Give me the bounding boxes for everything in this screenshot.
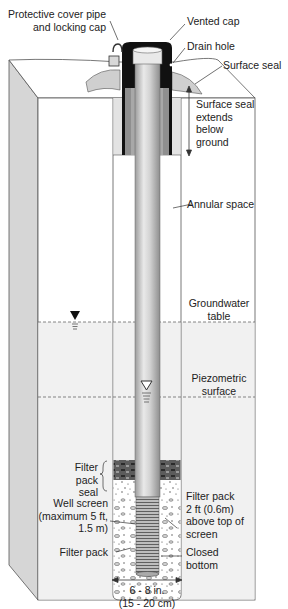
label-annular-space: Annular space: [187, 198, 254, 211]
padlock-icon: [109, 56, 119, 66]
closed-bottom: [136, 572, 159, 577]
label-vented-cap: Vented cap: [187, 15, 240, 28]
label-surface-seal-extends: Surface seal extends below ground: [196, 98, 254, 148]
drain-hole: [170, 64, 173, 67]
label-protective-cover: Protective cover pipe and locking cap: [0, 8, 106, 33]
label-well-screen: Well screen (maximum 5 ft, 1.5 m): [20, 497, 108, 535]
label-diameter: 6 - 8 in. (15 - 20 cm): [107, 584, 187, 609]
label-groundwater-table: Groundwater table: [181, 297, 257, 322]
label-drain-hole: Drain hole: [187, 40, 235, 53]
label-surface-seal: Surface seal: [223, 59, 281, 72]
label-filter-pack-seal: Filter pack seal: [50, 461, 98, 499]
label-filter-pack-left: Filter pack: [20, 546, 108, 559]
well-screen: [136, 497, 159, 573]
label-piezometric-surface: Piezometric surface: [181, 372, 257, 397]
label-closed-bottom: Closed bottom: [186, 546, 219, 571]
well-casing: [135, 60, 160, 497]
label-filter-pack-right: Filter pack 2 ft (0.6m) above top of scr…: [186, 490, 244, 540]
